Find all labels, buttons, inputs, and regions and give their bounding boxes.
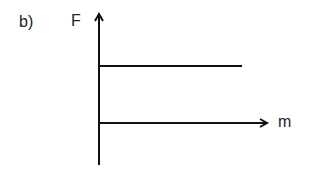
diagram-graphic <box>0 0 313 169</box>
x-axis-label: m <box>278 114 291 130</box>
y-axis-label: F <box>71 13 81 29</box>
force-vs-mass-diagram: b) F m <box>0 0 313 169</box>
part-label: b) <box>19 14 33 30</box>
